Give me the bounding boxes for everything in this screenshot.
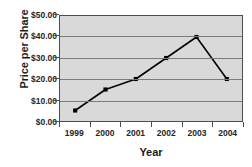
y-axis-tick-label: $30.00 <box>13 53 57 63</box>
x-axis-tick-mark <box>243 122 244 127</box>
x-axis-tick-mark <box>182 122 183 127</box>
gridline <box>60 79 242 80</box>
y-axis-tick-mark <box>54 35 59 36</box>
x-axis-tick-labels: 199920002001200220032004 <box>59 128 243 142</box>
y-axis-tick-label: $0.00 <box>13 117 57 127</box>
y-axis-tick-label: $20.00 <box>13 74 57 84</box>
x-axis-tick-label: 2004 <box>212 128 243 139</box>
x-axis-tick-mark <box>120 122 121 127</box>
x-axis-title: Year <box>59 146 243 158</box>
x-axis-tick-mark <box>90 122 91 127</box>
gridline <box>60 36 242 37</box>
y-axis-tick-mark <box>54 78 59 79</box>
gridline <box>60 58 242 59</box>
y-axis-tick-mark <box>54 100 59 101</box>
x-axis-tick-label: 2002 <box>151 128 182 139</box>
x-axis-tick-mark <box>151 122 152 127</box>
x-axis-tick-label: 1999 <box>59 128 90 139</box>
gridline <box>60 101 242 102</box>
y-axis-tick-label: $50.00 <box>13 10 57 20</box>
x-axis-tick-mark <box>59 122 60 127</box>
plot-area <box>59 15 243 122</box>
line-chart: Price per Share $0.00$10.00$20.00$30.00$… <box>0 0 252 167</box>
y-axis-tick-label: $40.00 <box>13 31 57 41</box>
y-axis-tick-mark <box>54 14 59 15</box>
x-axis-tick-mark <box>212 122 213 127</box>
data-point-marker <box>73 108 77 112</box>
y-axis-tick-labels: $0.00$10.00$20.00$30.00$40.00$50.00 <box>13 10 57 122</box>
x-axis-tick-label: 2001 <box>120 128 151 139</box>
x-axis-tick-label: 2000 <box>90 128 121 139</box>
data-series-line <box>60 16 242 121</box>
data-point-marker <box>103 87 107 91</box>
y-axis-tick-mark <box>54 57 59 58</box>
x-axis-tick-label: 2003 <box>182 128 213 139</box>
y-axis-tick-label: $10.00 <box>13 96 57 106</box>
